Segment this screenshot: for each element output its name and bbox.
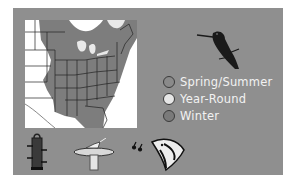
bird-feeder-icon [25,132,49,172]
legend-label: Spring/Summer [180,75,272,89]
spring-summer-swatch-icon [163,76,175,88]
legend-label: Year-Round [180,92,246,106]
range-map [25,20,137,128]
us-map-icon [25,20,137,128]
birdbath-icon [70,138,118,174]
winter-swatch-icon [163,110,175,122]
legend-item-year-round: Year-Round [163,90,272,107]
range-infographic-panel: Spring/Summer Year-Round Winter [13,8,283,175]
legend-item-spring-summer: Spring/Summer [163,73,272,90]
legend-item-winter: Winter [163,107,272,124]
bird-song-icon [130,134,190,174]
year-round-swatch-icon [163,93,175,105]
season-legend: Spring/Summer Year-Round Winter [163,73,272,124]
legend-label: Winter [180,109,219,123]
hummingbird-icon [195,23,251,73]
